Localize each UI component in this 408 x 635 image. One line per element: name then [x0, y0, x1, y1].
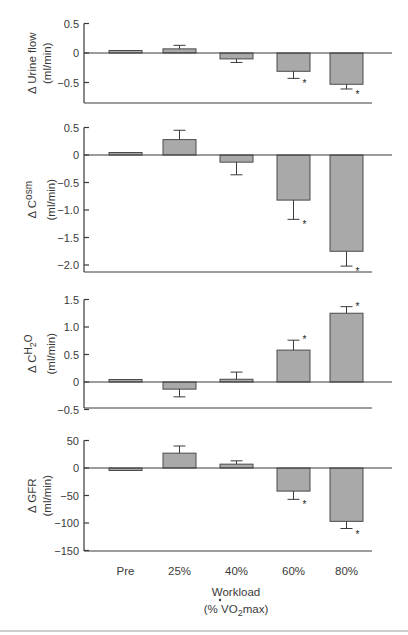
- bar-25pct: [163, 453, 196, 468]
- x-tick-label: 40%: [225, 565, 248, 577]
- x-tick-label: 25%: [168, 565, 191, 577]
- significance-marker: *: [303, 334, 307, 345]
- bar-80pct: [330, 155, 363, 251]
- y-tick-label: −0.5: [57, 177, 79, 189]
- bar-80pct: [330, 468, 363, 521]
- bar-60pct: [277, 468, 310, 491]
- x-axis-subtitle: (% VO2max): [204, 603, 269, 618]
- y-axis-label: Δ GFR: [26, 478, 38, 513]
- panel-gfr: 500−50−100−150**Δ GFR(ml/min): [26, 435, 392, 557]
- v-dot: [219, 599, 221, 601]
- significance-marker: *: [356, 529, 360, 540]
- y-tick-label: −0.5: [57, 404, 79, 416]
- significance-marker: *: [303, 219, 307, 230]
- bar-25pct: [163, 49, 196, 53]
- y-tick-label: −50: [60, 490, 79, 502]
- bar-80pct: [330, 53, 363, 84]
- y-tick-label: 50: [67, 435, 79, 447]
- panel-cosm: 0.50−0.5−1.0−1.5−2.0**Δ Cosm(ml/min): [23, 122, 392, 278]
- y-tick-label: 0.5: [64, 122, 79, 134]
- y-tick-label: −1.0: [57, 204, 79, 216]
- y-tick-label: 0: [73, 376, 79, 388]
- x-tick-label: 80%: [335, 565, 358, 577]
- bar-40pct: [220, 155, 253, 162]
- bar-25pct: [163, 140, 196, 155]
- y-axis-unit: (ml/min): [45, 179, 57, 221]
- significance-marker: *: [303, 499, 307, 510]
- bar-60pct: [277, 53, 310, 71]
- panel-ch2o: 1.51.00.50−0.5**Δ CH2O(ml/min): [23, 294, 392, 416]
- y-axis-label: Δ Urine flow: [26, 32, 38, 94]
- y-tick-label: 1.0: [64, 321, 79, 333]
- y-axis-unit: (ml/min): [41, 475, 53, 517]
- y-axis-label: Δ CH2O: [23, 334, 38, 373]
- y-axis-unit: (ml/min): [41, 42, 53, 84]
- y-axis-unit: (ml/min): [45, 333, 57, 375]
- x-axis-title: Workload: [212, 586, 260, 598]
- x-tick-label: 60%: [282, 565, 305, 577]
- y-tick-label: 0.5: [64, 349, 79, 361]
- x-tick-label: Pre: [117, 565, 135, 577]
- y-tick-label: 1.5: [64, 294, 79, 306]
- y-axis-label: Δ Cosm: [23, 181, 38, 218]
- significance-marker: *: [356, 301, 360, 312]
- y-tick-label: −100: [54, 517, 79, 529]
- y-tick-label: 0: [73, 462, 79, 474]
- bar-25pct: [163, 382, 196, 389]
- y-tick-label: −1.5: [57, 232, 79, 244]
- y-tick-label: 0: [73, 149, 79, 161]
- y-tick-label: 0: [73, 47, 79, 59]
- y-tick-label: −150: [54, 545, 79, 557]
- bar-40pct: [220, 53, 253, 59]
- significance-marker: *: [356, 266, 360, 277]
- significance-marker: *: [303, 78, 307, 89]
- significance-marker: *: [356, 89, 360, 100]
- y-tick-label: −0.5: [57, 77, 79, 89]
- y-tick-label: −2.0: [57, 259, 79, 271]
- bar-60pct: [277, 350, 310, 382]
- bar-80pct: [330, 313, 363, 382]
- bar-60pct: [277, 155, 310, 200]
- y-tick-label: 0.5: [64, 18, 79, 30]
- bar-chart-panels: 0.50−0.5**Δ Urine flow(ml/min)0.50−0.5−1…: [0, 0, 408, 635]
- panel-urine: 0.50−0.5**Δ Urine flow(ml/min): [26, 18, 392, 104]
